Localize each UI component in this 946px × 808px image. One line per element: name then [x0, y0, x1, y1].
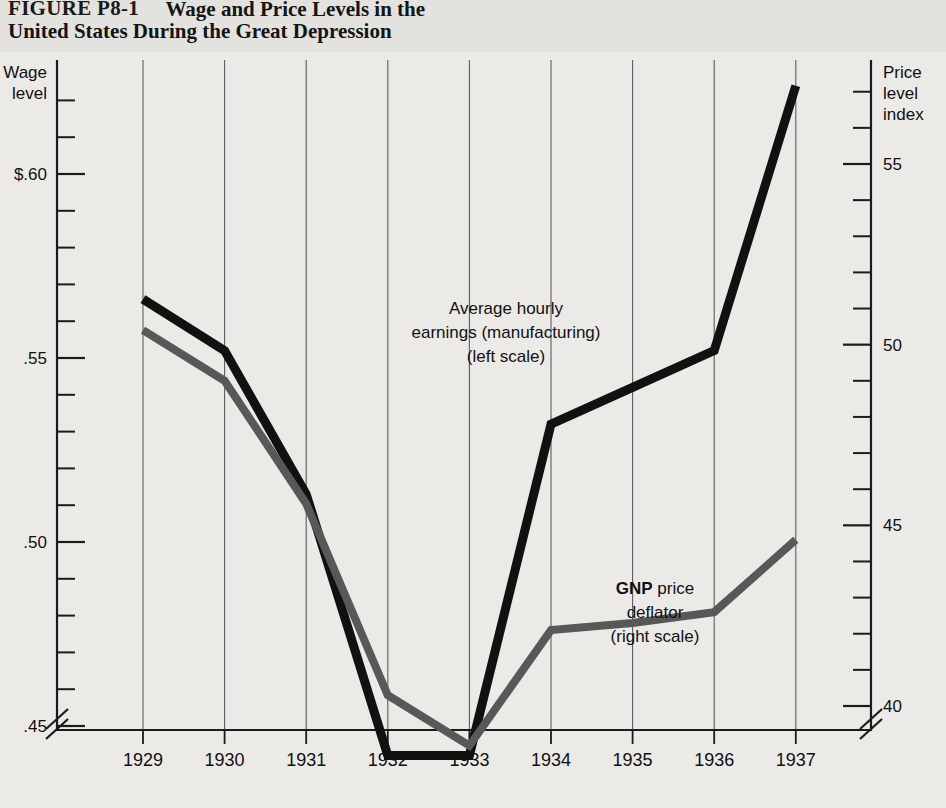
annotation-0-line-0: Average hourly	[449, 299, 564, 318]
x-axis-label-1934: 1934	[531, 750, 571, 770]
annotation-1-line-0: GNP price	[616, 579, 694, 598]
right-axis-label-2: 45	[883, 516, 902, 535]
left-axis-title-line-1: level	[12, 84, 47, 103]
x-axis-label-1936: 1936	[694, 750, 734, 770]
left-axis-title-line-0: Wage	[3, 63, 47, 82]
x-axis-label-1935: 1935	[613, 750, 653, 770]
x-axis-label-1937: 1937	[776, 750, 816, 770]
right-axis-label-0: 55	[883, 155, 902, 174]
figure-title-line-2: United States During the Great Depressio…	[8, 18, 392, 44]
left-axis-label-0: $.60	[14, 165, 47, 184]
figure-page: FIGURE P8-1 Wage and Price Levels in the…	[0, 0, 946, 808]
right-axis-label-1: 50	[883, 336, 902, 355]
x-axis-label-1930: 1930	[205, 750, 245, 770]
right-axis-title-line-2: index	[883, 105, 924, 124]
chart-container: $.60.55.50.45 55504540 WagelevelPricelev…	[0, 52, 946, 808]
annotation-1-line-1: deflator	[627, 603, 684, 622]
annotation-0-line-1: earnings (manufacturing)	[412, 323, 601, 342]
annotation-0-line-2: (left scale)	[467, 347, 545, 366]
left-axis-label-3: .45	[23, 717, 47, 736]
left-axis-label-1: .55	[23, 349, 47, 368]
right-axis-title-line-1: level	[883, 84, 918, 103]
right-axis-label-3: 40	[883, 697, 902, 716]
left-axis-label-2: .50	[23, 533, 47, 552]
figure-title-block: FIGURE P8-1 Wage and Price Levels in the…	[0, 0, 946, 52]
right-axis-title-line-0: Price	[883, 63, 922, 82]
annotation-1-line-2: (right scale)	[611, 627, 700, 646]
wage-price-line-chart: $.60.55.50.45 55504540 WagelevelPricelev…	[0, 52, 946, 808]
chart-background	[0, 52, 946, 808]
x-axis-label-1931: 1931	[286, 750, 326, 770]
x-axis-label-1929: 1929	[123, 750, 163, 770]
